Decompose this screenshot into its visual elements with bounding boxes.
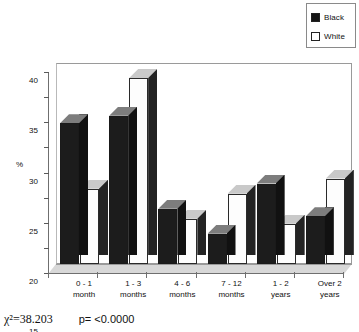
x-axis-labels: 0 - 1month1 - 3months4 - 6months7 - 12mo… [48,278,352,308]
y-axis-tick-label: 35 [29,127,38,135]
y-axis-tick: 35 [44,97,49,98]
x-label-line: years [302,289,358,300]
bar-group [257,63,306,264]
chart-container: Black White 0510152025303540 % 0 - 1mont… [0,0,359,332]
x-label-line: months [204,289,260,300]
x-axis-tick [146,272,147,278]
bar-side-face [79,114,88,255]
y-axis-tick: 15 [44,198,49,199]
x-label-line: 1 - 3 [105,278,161,289]
x-axis-tick [245,272,246,278]
y-axis-tick: 10 [44,223,49,224]
bar-black [257,175,276,264]
bar-group [60,63,109,264]
x-axis-tick [196,272,197,278]
y-axis-tick-label: 25 [29,228,38,236]
bar-side-face [247,185,256,255]
bar-side-face [345,170,354,255]
y-axis-tick: 25 [44,147,49,148]
bar-black [109,107,128,264]
bar-black [60,114,79,264]
legend-item-white: White [311,27,352,46]
chart-statistics: χ²=38.203 p= <0.0000 [4,312,134,327]
bar-front-face [208,234,227,264]
bar-black [306,207,325,264]
chi-square-value: χ²=38.203 [4,312,53,327]
x-label-line: months [105,289,161,300]
bar-side-face [128,107,137,255]
bar-front-face [306,216,325,264]
x-label-line: 1 - 2 [253,278,309,289]
legend-label-white: White [324,32,345,41]
y-axis-tick-label: 20 [29,278,38,286]
bar-side-face [177,200,186,255]
x-axis-category-label: 7 - 12months [204,278,260,300]
x-axis-category-label: 0 - 1month [56,278,112,300]
x-axis-tick [97,272,98,278]
legend-item-black: Black [311,8,352,27]
x-label-line: month [56,289,112,300]
plot-area: 0510152025303540 [48,63,352,275]
plot-floor [48,264,352,274]
bar-series-group [57,63,352,264]
bar-side-face [99,180,108,255]
bar-group [158,63,207,264]
y-axis-tick-label: 40 [29,77,38,85]
y-axis-tick: 30 [44,122,49,123]
x-axis-tick [48,272,49,278]
x-axis-tick [343,272,344,278]
bar-black [208,225,227,264]
bar-black [158,200,177,264]
bar-front-face [60,123,79,264]
x-axis-category-label: Over 2years [302,278,358,300]
bar-front-face [109,116,128,264]
y-axis-tick: 20 [44,173,49,174]
plot-floor-back-edge [56,264,352,265]
x-axis-tick [294,272,295,278]
y-axis-tick-label: 15 [29,328,38,332]
bar-front-face [158,209,177,264]
legend-label-black: Black [324,13,344,22]
x-label-line: 7 - 12 [204,278,260,289]
chart-legend: Black White [306,3,356,48]
x-label-line: years [253,289,309,300]
x-axis-category-label: 1 - 3months [105,278,161,300]
legend-swatch-black-icon [311,13,320,22]
x-axis-category-label: 1 - 2years [253,278,309,300]
y-axis-title: % [16,160,23,169]
bar-group [306,63,355,264]
bar-front-face [257,184,276,264]
x-label-line: 4 - 6 [154,278,210,289]
x-axis-category-label: 4 - 6months [154,278,210,300]
x-label-line: Over 2 [302,278,358,289]
bar-side-face [276,175,285,255]
p-value: p= <0.0000 [79,313,135,325]
x-label-line: 0 - 1 [56,278,112,289]
y-axis-tick-label: 30 [29,178,38,186]
x-label-line: months [154,289,210,300]
bar-side-face [148,69,157,255]
bar-group [109,63,158,264]
bar-group [208,63,257,264]
y-axis-tick: 40 [44,72,49,73]
y-axis-tick: 5 [44,248,49,249]
legend-swatch-white-icon [311,32,320,41]
plot-left-wall [48,63,57,273]
